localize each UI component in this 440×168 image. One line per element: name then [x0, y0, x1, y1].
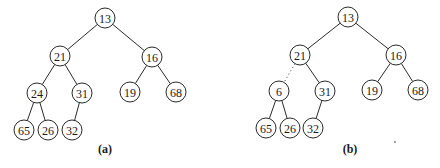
tree-node: 24 [27, 83, 47, 103]
edge-a24-a65 [27, 102, 33, 120]
node-label: 13 [99, 12, 111, 26]
tree-node: 21 [50, 46, 70, 66]
node-label: 65 [18, 124, 30, 138]
tree-node: 32 [62, 120, 82, 140]
tree-node: 26 [280, 118, 300, 138]
tree-node: 26 [38, 120, 58, 140]
tree-b-caption: (b) [343, 142, 358, 156]
tree-node: 32 [303, 118, 323, 138]
node-label: 26 [284, 122, 296, 136]
tree-a-caption: (a) [98, 142, 112, 156]
edge-b13-b21 [308, 23, 340, 49]
tree-node: 21 [290, 45, 310, 65]
tree-node: 16 [142, 47, 162, 67]
node-label: 16 [146, 51, 158, 65]
node-label: 13 [342, 11, 354, 25]
edge-b16-b19 [378, 63, 391, 82]
tree-b: 1321166311968652632 (b) [256, 7, 428, 156]
node-label: 68 [170, 86, 182, 100]
tree-node: 19 [120, 82, 140, 102]
node-label: 16 [390, 49, 402, 63]
edge-b13-b16 [356, 23, 388, 49]
tree-node: 6 [269, 81, 289, 101]
node-label: 68 [412, 84, 424, 98]
tree-a-nodes: 13211624311968652632 [14, 8, 186, 140]
edge-b21-b6 [284, 64, 295, 83]
tree-b-nodes: 1321166311968652632 [256, 7, 428, 138]
scan-speck [394, 141, 396, 143]
tree-node: 68 [166, 82, 186, 102]
tree-node: 31 [315, 81, 335, 101]
edge-b6-b65 [269, 100, 275, 118]
tree-a-edges [27, 24, 170, 120]
edge-a13-a21 [68, 24, 98, 49]
tree-node: 13 [338, 7, 358, 27]
edge-a16-a19 [135, 65, 146, 83]
edge-a24-a26 [40, 103, 45, 121]
tree-node: 31 [72, 83, 92, 103]
node-label: 21 [294, 49, 306, 63]
edge-b31-b32 [316, 101, 322, 119]
node-label: 24 [31, 87, 43, 101]
node-label: 31 [319, 85, 331, 99]
edge-a31-a32 [75, 103, 80, 121]
edge-b16-b68 [401, 63, 412, 81]
binary-heap-diagram: 13211624311968652632 (a) 132116631196865… [0, 0, 440, 168]
node-label: 31 [76, 87, 88, 101]
node-label: 19 [366, 84, 378, 98]
edge-b6-b26 [282, 101, 287, 119]
edge-a13-a16 [113, 24, 145, 50]
node-label: 32 [66, 124, 78, 138]
edge-a21-a24 [42, 64, 54, 84]
node-label: 21 [54, 50, 66, 64]
node-label: 26 [42, 124, 54, 138]
tree-node: 13 [95, 8, 115, 28]
node-label: 19 [124, 86, 136, 100]
tree-node: 65 [14, 120, 34, 140]
tree-node: 68 [408, 80, 428, 100]
edge-b21-b31 [306, 63, 320, 83]
tree-node: 16 [386, 45, 406, 65]
tree-node: 19 [362, 80, 382, 100]
edge-a21-a31 [65, 65, 77, 85]
tree-b-edges [269, 23, 412, 118]
tree-a: 13211624311968652632 (a) [14, 8, 186, 156]
tree-node: 65 [256, 118, 276, 138]
node-label: 65 [260, 122, 272, 136]
node-label: 32 [307, 122, 319, 136]
node-label: 6 [276, 85, 282, 99]
edge-a16-a68 [158, 65, 171, 84]
